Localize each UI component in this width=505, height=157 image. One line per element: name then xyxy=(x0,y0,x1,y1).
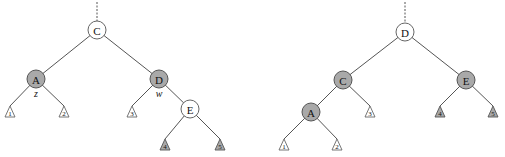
node-label: C xyxy=(339,75,346,87)
subtree-1: 1 xyxy=(279,139,289,151)
subtree-label: 4 xyxy=(163,143,167,151)
node-C: C xyxy=(88,21,106,39)
node-E: E xyxy=(457,71,475,89)
node-C: C xyxy=(334,71,352,89)
node-A: A xyxy=(302,103,320,121)
node-E: E xyxy=(181,100,199,118)
edge-D-E xyxy=(405,32,466,80)
subtree-2: 2 xyxy=(59,106,69,118)
node-tag: w xyxy=(156,88,163,99)
subtree-label: 2 xyxy=(62,110,66,118)
node-tag: z xyxy=(33,88,38,99)
subtree-label: 5 xyxy=(491,110,495,118)
node-A: Az xyxy=(27,70,45,99)
edge-C-A xyxy=(36,30,97,79)
subtree-label: 3 xyxy=(368,110,372,118)
node-label: A xyxy=(32,74,40,86)
subtree-label: 2 xyxy=(335,143,339,151)
subtree-label: 1 xyxy=(282,143,286,151)
node-label: A xyxy=(307,107,315,119)
subtree-label: 4 xyxy=(438,110,442,118)
tree-before: 12345CAzDwE xyxy=(5,2,225,151)
edge-C-D xyxy=(97,30,159,79)
edge-D-C xyxy=(343,32,405,80)
subtree-5: 5 xyxy=(215,139,225,151)
tree-rotation-diagram: 12345CAzDwE12345DCEA xyxy=(0,0,505,157)
subtree-label: 1 xyxy=(8,110,12,118)
node-D: D xyxy=(396,23,414,41)
node-D: Dw xyxy=(150,70,168,99)
subtree-label: 5 xyxy=(218,143,222,151)
diagram-svg: 12345CAzDwE12345DCEA xyxy=(0,0,505,157)
subtree-4: 4 xyxy=(160,139,170,151)
subtree-label: 3 xyxy=(130,110,134,118)
subtree-5: 5 xyxy=(488,106,498,118)
node-label: D xyxy=(155,74,163,86)
subtree-2: 2 xyxy=(332,139,342,151)
node-label: D xyxy=(401,27,409,39)
tree-after: 12345DCEA xyxy=(279,2,498,151)
subtree-3: 3 xyxy=(365,106,375,118)
node-label: E xyxy=(187,104,194,116)
node-label: E xyxy=(463,75,470,87)
node-label: C xyxy=(93,25,100,37)
subtree-3: 3 xyxy=(127,106,137,118)
subtree-1: 1 xyxy=(5,106,15,118)
subtree-4: 4 xyxy=(435,106,445,118)
